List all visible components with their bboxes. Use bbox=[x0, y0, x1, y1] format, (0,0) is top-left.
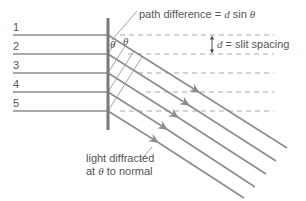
grating bbox=[107, 18, 110, 130]
slit-spacing-label: d = slit spacing bbox=[217, 38, 289, 50]
diffracted-label-line1: light diffracted bbox=[86, 152, 154, 164]
slit-label-4: 4 bbox=[13, 78, 19, 90]
slit-spacing-arrow bbox=[210, 36, 214, 54]
slit-label-2: 2 bbox=[13, 40, 19, 52]
slit-label-1: 1 bbox=[13, 21, 19, 33]
diffraction-diagram: 1 2 3 4 5 θ θ path difference = d sin θ … bbox=[0, 0, 306, 201]
incident-rays bbox=[13, 35, 108, 111]
angle-theta-grating: θ bbox=[110, 38, 116, 50]
slit-label-5: 5 bbox=[13, 97, 19, 109]
path-difference-label: path difference = d sin θ bbox=[139, 8, 256, 20]
slit-label-3: 3 bbox=[13, 59, 19, 71]
diffracted-label-line2: at θ to normal bbox=[86, 165, 153, 177]
angle-theta-normal: θ bbox=[123, 35, 129, 47]
